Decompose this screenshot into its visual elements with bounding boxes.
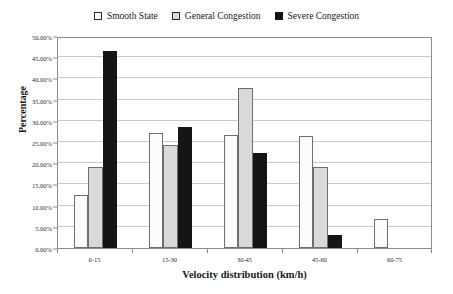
bar-smooth-state <box>299 136 314 248</box>
x-axis-tick-mark <box>282 249 283 253</box>
bar-severe-congestion <box>103 51 118 248</box>
bar-severe-congestion <box>328 235 343 248</box>
bar-severe-congestion <box>178 127 193 248</box>
bar-smooth-state <box>374 219 389 248</box>
bar-smooth-state <box>149 133 164 248</box>
legend-swatch-smooth-state-icon <box>94 12 102 20</box>
legend-label-smooth-state: Smooth State <box>107 11 158 21</box>
y-axis-tick-label: 10.00% <box>32 203 52 210</box>
x-axis-tick-label: 15-30 <box>162 256 177 264</box>
y-axis-tick-label: 5.00% <box>35 224 52 231</box>
x-axis-tick-mark <box>132 249 133 253</box>
legend-label-severe-congestion: Severe Congestion <box>288 11 360 21</box>
bar-general-congestion <box>238 88 253 248</box>
y-axis-tick-label: 35.00% <box>32 97 52 104</box>
y-axis-tick-label: 15.00% <box>32 182 52 189</box>
x-axis-tick-mark <box>207 249 208 253</box>
bar-severe-congestion <box>253 153 268 248</box>
x-axis-tick-mark <box>357 249 358 253</box>
y-axis-tick-label: 45.00% <box>32 55 52 62</box>
y-axis-tick-label: 40.00% <box>32 76 52 83</box>
y-axis-tick-label: 0.00% <box>35 246 52 253</box>
x-axis-tick-mark <box>57 249 58 253</box>
y-axis-tick-label: 25.00% <box>32 140 52 147</box>
bar-general-congestion <box>88 167 103 248</box>
y-axis-tick-label: 20.00% <box>32 161 52 168</box>
legend-item-general-congestion: General Congestion <box>172 11 261 21</box>
y-axis-tick-label: 50.00% <box>32 34 52 41</box>
x-axis-tick-label: 30-45 <box>237 256 252 264</box>
chart-legend: Smooth State General Congestion Severe C… <box>0 11 453 21</box>
x-axis-tick-mark <box>431 249 432 253</box>
x-axis-ticks: 0-1515-3030-4545-6060-75 <box>57 249 432 271</box>
legend-item-severe-congestion: Severe Congestion <box>275 11 360 21</box>
bar-chart: Smooth State General Congestion Severe C… <box>0 0 453 294</box>
legend-item-smooth-state: Smooth State <box>94 11 158 21</box>
legend-swatch-general-congestion-icon <box>172 12 180 20</box>
x-axis-title: Velocity distribution (km/h) <box>57 269 432 280</box>
bar-general-congestion <box>313 167 328 248</box>
y-axis-tick-label: 30.00% <box>32 118 52 125</box>
x-axis-tick-label: 0-15 <box>89 256 101 264</box>
x-axis-tick-label: 45-60 <box>312 256 327 264</box>
y-axis-ticks: 0.00%5.00%10.00%15.00%20.00%25.00%30.00%… <box>0 37 57 249</box>
x-axis-tick-label: 60-75 <box>387 256 402 264</box>
bar-smooth-state <box>74 195 89 248</box>
legend-label-general-congestion: General Congestion <box>185 11 261 21</box>
plot-area <box>57 37 432 249</box>
bar-general-congestion <box>163 145 178 248</box>
bars-layer <box>58 38 431 248</box>
bar-smooth-state <box>224 135 239 248</box>
legend-swatch-severe-congestion-icon <box>275 12 283 20</box>
